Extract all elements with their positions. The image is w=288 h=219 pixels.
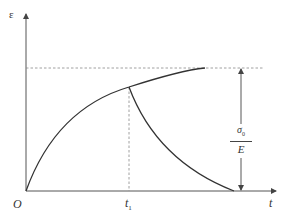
t1-label: t1: [125, 197, 132, 212]
creep-curve: [26, 68, 205, 191]
fraction-bar: [230, 141, 252, 142]
x-axis-label: t: [269, 197, 272, 209]
recovery-curve: [129, 87, 234, 191]
fraction-numerator: σ0: [228, 124, 254, 140]
y-axis-label: ε: [9, 9, 14, 20]
sigma-over-e-label: σ0 E: [228, 124, 254, 156]
t1-label-sub: 1: [128, 204, 132, 212]
sigma-subscript: 0: [242, 131, 245, 137]
strain-time-diagram: [0, 0, 288, 219]
fraction-denominator: E: [228, 143, 254, 156]
origin-label: O: [13, 198, 22, 210]
